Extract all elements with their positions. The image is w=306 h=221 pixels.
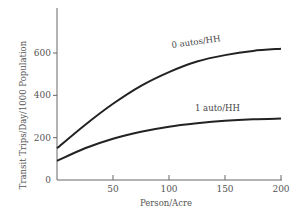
y-axis-title: Transit Trips/Day/1000 Population [18, 40, 28, 189]
y-tick-label: 400 [34, 90, 51, 100]
x-tick-label: 50 [107, 184, 119, 194]
y-ticks: 0200400600 [34, 48, 57, 185]
x-tick-label: 100 [160, 184, 177, 194]
y-tick-label: 0 [45, 175, 51, 185]
y-tick-label: 600 [34, 48, 51, 58]
x-tick-label: 200 [272, 184, 289, 194]
series-lines [57, 49, 281, 161]
x-axis-title: Person/Acre [140, 198, 192, 208]
series-line-0-autos [57, 49, 281, 148]
series-label-1-auto: 1 auto/HH [195, 103, 240, 113]
series-line-1-auto [57, 119, 281, 161]
y-tick-label: 200 [34, 133, 51, 143]
x-tick-label: 150 [216, 184, 233, 194]
line-chart: 0200400600 50100150200 0 autos/HH 1 auto… [0, 0, 306, 221]
x-ticks: 50100150200 [107, 175, 290, 194]
axes [57, 8, 282, 180]
series-label-0-autos: 0 autos/HH [171, 33, 221, 50]
